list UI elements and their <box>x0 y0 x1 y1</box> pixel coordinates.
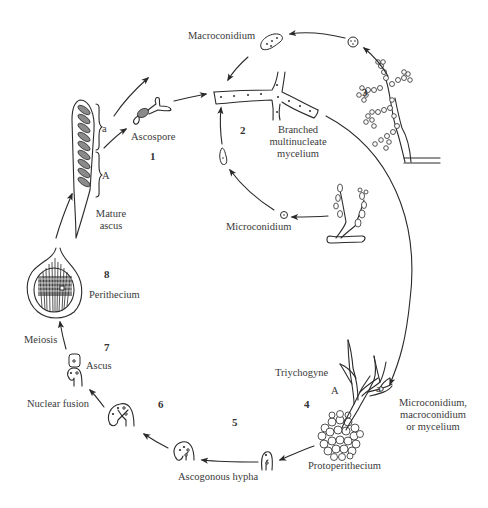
protoperithecium-drawing <box>316 340 392 461</box>
conidium-drawing <box>348 37 358 47</box>
conidiophore-drawing <box>357 60 440 163</box>
microconidiophore-drawing <box>327 184 368 243</box>
stage-number-5: 5 <box>232 416 238 428</box>
ascospores-in-ascus <box>77 104 92 189</box>
label-mature-ascus-line1: Mature <box>86 208 136 220</box>
label-mating-type-A: A <box>102 170 110 182</box>
arrow-perithecium-to-mature-ascus <box>56 194 72 238</box>
crozier-drawing <box>108 404 134 426</box>
macroconidium-drawing <box>261 34 283 50</box>
arrow-ascus-to-perithecium <box>60 322 66 349</box>
label-ascogonous-hypha: Ascogonous hypha <box>178 471 258 483</box>
arrow-microconidiophore-to-microconidium <box>292 216 328 217</box>
label-mating-type-a: a <box>102 123 107 135</box>
label-mycelium-line3: mycelium <box>258 148 338 160</box>
arrow-ascospore-to-mycelium <box>174 94 206 101</box>
label-fertilizer-line3: or mycelium <box>390 421 476 433</box>
label-perithecium: Perithecium <box>89 289 140 301</box>
label-trichogyne: Triychogyne <box>275 367 328 379</box>
label-fertilizing-agents: Microconidium, macroconidium or mycelium <box>390 397 476 433</box>
stage-number-6: 6 <box>158 398 164 410</box>
arrow-cell-to-crozier <box>144 434 168 448</box>
arrow-crozier-to-ascus <box>90 390 104 407</box>
label-mycelium: Branched multinucleate mycelium <box>258 124 338 160</box>
label-trichogyne-A: A <box>331 385 339 397</box>
label-fertilizer-line2: macroconidium <box>390 409 476 421</box>
label-mycelium-line1: Branched <box>258 124 338 136</box>
stage-number-8: 8 <box>104 268 110 280</box>
stage-number-2: 2 <box>240 124 246 136</box>
label-fertilizer-line1: Microconidium, <box>390 397 476 409</box>
label-microconidium: Microconidium <box>226 221 291 233</box>
label-ascus: Ascus <box>86 360 112 372</box>
life-cycle-diagram: Macroconidium Ascospore 1 2 Branched mul… <box>0 0 488 508</box>
ascogonous-cell-drawing <box>174 442 194 460</box>
arrow-germ-to-mycelium <box>220 108 222 144</box>
germinating-microconidium-drawing <box>220 148 227 165</box>
label-macroconidium: Macroconidium <box>188 30 255 42</box>
stage-number-1: 1 <box>150 150 156 162</box>
stage-number-7: 7 <box>104 341 110 353</box>
ascospore-drawing <box>134 97 171 124</box>
arrow-hypha-to-cell <box>202 460 258 462</box>
microconidium-drawing <box>281 212 288 219</box>
perithecium-drawing <box>27 248 82 318</box>
stage-number-3: 3 <box>362 86 368 98</box>
label-nuclear-fusion: Nuclear fusion <box>27 398 89 410</box>
arrow-protoperithecium-to-hypha <box>280 446 314 460</box>
arrow-mycelium-to-protoperithecium <box>326 116 412 384</box>
label-trichogyne-a: a <box>376 383 381 395</box>
label-meiosis: Meiosis <box>24 334 57 346</box>
mycelium-drawing <box>214 72 318 120</box>
label-mycelium-line2: multinucleate <box>258 136 338 148</box>
label-protoperithecium: Protoperithecium <box>308 460 381 472</box>
label-ascospore: Ascospore <box>131 131 175 143</box>
label-mature-ascus-line2: ascus <box>86 220 136 232</box>
young-ascus-drawing <box>68 354 82 386</box>
arrow-macroconidium-to-mycelium <box>228 57 248 80</box>
arrow-microconidium-to-germ <box>230 170 274 210</box>
label-mature-ascus: Mature ascus <box>86 208 136 232</box>
arrow-conidium-to-macroconidium <box>290 33 345 38</box>
stage-number-4: 4 <box>304 398 310 410</box>
arrow-ascus-to-ascospore <box>104 129 126 148</box>
ascogonous-hypha-drawing <box>262 452 273 470</box>
